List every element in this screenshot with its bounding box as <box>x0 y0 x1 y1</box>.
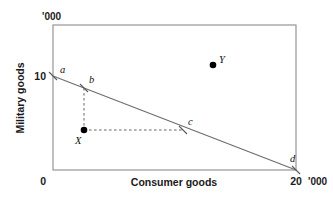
ppf-chart-figure: a b c d X Y 10 0 20 '000 '000 Consumer g… <box>0 0 333 208</box>
y-axis-unit-label: '000 <box>42 11 62 22</box>
point-label-b: b <box>89 74 94 85</box>
point-label-d: d <box>290 153 296 164</box>
y-axis-title: Military goods <box>14 62 26 133</box>
point-label-a: a <box>60 64 65 75</box>
data-point-x-dot <box>81 127 88 134</box>
plot-frame <box>53 25 296 170</box>
y-axis-origin-label: 0 <box>40 175 46 187</box>
x-axis-tick-20: 20 <box>290 175 302 187</box>
y-axis-tick-10: 10 <box>34 70 46 82</box>
point-label-c: c <box>188 116 193 127</box>
point-label-x: X <box>74 135 82 146</box>
x-axis-title: Consumer goods <box>131 176 217 188</box>
chart-canvas: a b c d X Y 10 0 20 '000 '000 Consumer g… <box>0 0 333 208</box>
x-axis-unit-label: '000 <box>308 176 328 187</box>
data-point-y-dot <box>210 62 217 69</box>
